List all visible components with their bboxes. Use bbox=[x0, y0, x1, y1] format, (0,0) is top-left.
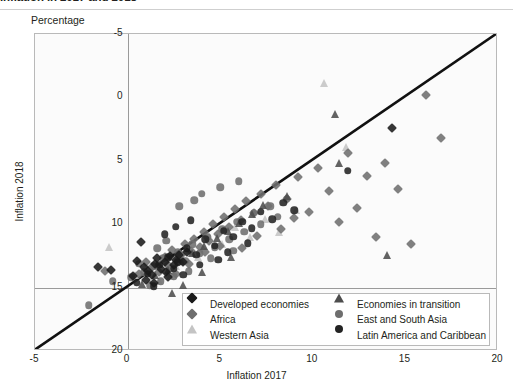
data-point bbox=[216, 184, 224, 192]
unit-label: Percentage bbox=[31, 14, 85, 26]
data-point bbox=[241, 228, 249, 236]
legend-marker bbox=[334, 294, 344, 303]
legend-marker bbox=[187, 325, 197, 334]
data-point bbox=[198, 190, 206, 198]
legend-item[interactable]: Africa bbox=[192, 313, 309, 329]
data-point bbox=[179, 271, 187, 279]
y-tick-label: 0 bbox=[83, 90, 123, 101]
data-point bbox=[220, 227, 228, 235]
legend-item-label: Africa bbox=[210, 315, 236, 325]
data-point bbox=[215, 256, 223, 264]
data-point bbox=[153, 245, 161, 253]
data-point bbox=[192, 251, 200, 259]
data-point bbox=[279, 199, 287, 207]
data-point bbox=[257, 220, 265, 228]
data-point bbox=[168, 289, 176, 297]
data-point bbox=[202, 236, 210, 244]
data-point bbox=[344, 167, 352, 175]
x-tick-label: 5 bbox=[199, 353, 239, 364]
x-tick-label: -5 bbox=[14, 353, 54, 364]
data-point bbox=[248, 210, 256, 218]
legend-item-label: Western Asia bbox=[210, 331, 269, 341]
data-point bbox=[176, 203, 184, 211]
legend-marker bbox=[335, 310, 343, 318]
data-point bbox=[133, 279, 141, 287]
data-point bbox=[172, 223, 180, 231]
data-point bbox=[187, 217, 195, 225]
data-point bbox=[248, 224, 256, 232]
data-point bbox=[213, 234, 221, 242]
data-point bbox=[291, 207, 299, 215]
data-point bbox=[85, 302, 93, 310]
title-divider bbox=[0, 9, 513, 10]
data-point bbox=[335, 159, 343, 167]
data-point bbox=[211, 242, 219, 250]
x-tick-label: 0 bbox=[107, 353, 147, 364]
data-point bbox=[257, 208, 265, 216]
data-point bbox=[320, 79, 328, 87]
legend-marker bbox=[186, 293, 197, 304]
data-point bbox=[224, 248, 232, 256]
legend-item[interactable]: East and South Asia bbox=[339, 313, 486, 329]
page-title: Inflation in 2017 and 2018 bbox=[0, 0, 513, 7]
circle-icon bbox=[339, 314, 352, 327]
legend-item[interactable]: Economies in transition bbox=[339, 297, 486, 313]
legend-item[interactable]: Latin America and Caribbean bbox=[339, 328, 486, 344]
data-point bbox=[383, 251, 391, 259]
data-point bbox=[191, 196, 199, 204]
x-tick-label: 20 bbox=[477, 353, 513, 364]
legend-item[interactable]: Developed economies bbox=[192, 297, 309, 313]
y-tick-label: 15 bbox=[83, 281, 123, 292]
legend-item-label: Developed economies bbox=[210, 300, 309, 310]
legend-item-label: East and South Asia bbox=[357, 315, 447, 325]
data-point bbox=[331, 110, 339, 118]
circle-icon bbox=[339, 329, 352, 342]
data-point bbox=[244, 239, 252, 247]
legend-item[interactable]: Western Asia bbox=[192, 328, 309, 344]
data-point bbox=[229, 233, 237, 241]
data-point bbox=[239, 218, 247, 226]
triangle-icon bbox=[192, 329, 205, 342]
legend-column-right: Economies in transitionEast and South As… bbox=[339, 297, 486, 344]
data-point bbox=[161, 231, 169, 239]
x-tick-label: 15 bbox=[384, 353, 424, 364]
data-point bbox=[268, 215, 276, 223]
triangle-icon bbox=[339, 298, 352, 311]
y-tick-label: 5 bbox=[83, 154, 123, 165]
legend-item-label: Economies in transition bbox=[357, 300, 460, 310]
x-tick-label: 10 bbox=[292, 353, 332, 364]
data-point bbox=[198, 268, 206, 276]
data-point bbox=[179, 281, 187, 289]
data-point bbox=[207, 255, 215, 263]
y-axis-label: Inflation 2018 bbox=[14, 137, 25, 247]
data-point bbox=[105, 243, 113, 251]
data-point bbox=[235, 177, 243, 185]
data-point bbox=[196, 261, 204, 269]
legend-marker bbox=[335, 325, 343, 333]
data-point bbox=[266, 203, 274, 211]
y-tick-label: -5 bbox=[83, 27, 123, 38]
legend-item-label: Latin America and Caribbean bbox=[357, 331, 486, 341]
y-tick-label: 10 bbox=[83, 217, 123, 228]
legend: Developed economiesAfricaWestern Asia Ec… bbox=[182, 293, 490, 346]
legend-column-left: Developed economiesAfricaWestern Asia bbox=[192, 297, 309, 344]
x-axis-label: Inflation 2017 bbox=[0, 370, 513, 381]
